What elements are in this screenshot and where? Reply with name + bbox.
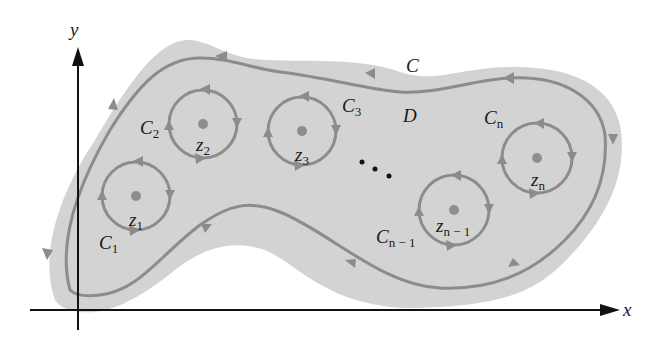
point-zn — [532, 153, 542, 163]
label-zn: zn — [531, 170, 545, 192]
point-z1 — [131, 191, 141, 201]
outer-contour-label: C — [406, 56, 419, 75]
point-z3 — [297, 126, 307, 136]
diagram-graphics — [0, 0, 660, 342]
y-axis-arrowhead — [72, 47, 84, 66]
label-cn: Cn — [484, 108, 503, 130]
label-c2: C2 — [140, 118, 159, 140]
label-z2: z2 — [196, 135, 210, 157]
label-c3: C3 — [342, 96, 361, 118]
x-axis-label: x — [623, 300, 631, 319]
label-z1: z1 — [129, 210, 143, 232]
point-zn-1 — [449, 205, 459, 215]
y-axis-label: y — [70, 20, 78, 39]
label-z3: z3 — [295, 145, 309, 167]
diagram-canvas: y x C D C1 z1 C2 z2 C3 z3 Cn − 1 zn − 1 … — [0, 0, 660, 342]
label-zn-1: zn − 1 — [436, 216, 470, 238]
x-axis-arrowhead — [600, 304, 620, 316]
point-z2 — [198, 119, 208, 129]
region-label: D — [403, 106, 417, 125]
label-c1: C1 — [99, 233, 118, 255]
label-cn-1: Cn − 1 — [376, 227, 416, 249]
